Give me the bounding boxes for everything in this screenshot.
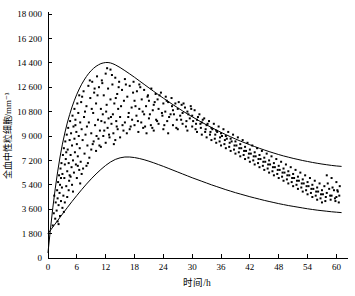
data-point xyxy=(74,119,76,121)
data-point xyxy=(163,124,165,126)
data-point xyxy=(122,130,124,132)
data-point xyxy=(267,163,269,165)
data-point xyxy=(59,184,61,186)
data-point xyxy=(282,172,284,174)
data-point xyxy=(97,138,99,140)
data-point xyxy=(61,173,63,175)
data-point xyxy=(326,192,328,194)
data-point xyxy=(259,158,261,160)
data-point xyxy=(111,74,113,76)
data-point xyxy=(75,163,77,165)
data-point xyxy=(287,182,289,184)
data-point xyxy=(216,131,218,133)
data-point xyxy=(172,124,174,126)
data-point xyxy=(86,126,88,128)
data-point xyxy=(186,130,188,132)
data-point xyxy=(81,96,83,98)
data-point xyxy=(252,159,254,161)
data-point xyxy=(81,128,83,130)
data-point xyxy=(185,120,187,122)
data-point xyxy=(266,153,268,155)
data-point xyxy=(63,177,65,179)
data-point xyxy=(276,173,278,175)
data-point xyxy=(74,124,76,126)
data-point xyxy=(86,144,88,146)
data-point xyxy=(213,123,215,125)
data-point xyxy=(125,83,127,85)
data-point xyxy=(175,127,177,129)
data-point xyxy=(273,174,275,176)
data-point xyxy=(322,193,324,195)
data-point xyxy=(148,117,150,119)
data-point xyxy=(129,85,131,87)
data-point xyxy=(242,139,244,141)
data-point xyxy=(234,153,236,155)
data-point xyxy=(339,185,341,187)
data-point xyxy=(57,181,59,183)
data-point xyxy=(230,138,232,140)
data-point xyxy=(150,88,152,90)
data-point xyxy=(64,201,66,203)
data-point xyxy=(315,195,317,197)
data-point xyxy=(141,98,143,100)
data-point xyxy=(72,115,74,117)
data-point xyxy=(123,100,125,102)
data-point xyxy=(164,111,166,113)
data-point xyxy=(89,97,91,99)
data-point xyxy=(92,112,94,114)
data-point xyxy=(281,176,283,178)
y-tick-label: 14 400 xyxy=(17,58,42,68)
data-point xyxy=(60,200,62,202)
data-point xyxy=(117,128,119,130)
data-point xyxy=(263,169,265,171)
data-point xyxy=(299,172,301,174)
data-point xyxy=(118,81,120,83)
data-point xyxy=(293,177,295,179)
data-point xyxy=(177,108,179,110)
data-point xyxy=(202,119,204,121)
data-point xyxy=(68,162,70,164)
data-point xyxy=(71,184,73,186)
data-point xyxy=(166,120,168,122)
data-point xyxy=(58,174,60,176)
data-point xyxy=(92,143,94,145)
data-point xyxy=(267,168,269,170)
data-point xyxy=(87,85,89,87)
x-tick-label: 12 xyxy=(101,262,110,272)
data-point xyxy=(127,116,129,118)
data-point xyxy=(115,120,117,122)
data-point xyxy=(230,150,232,152)
data-point xyxy=(82,139,84,141)
data-point xyxy=(149,113,151,115)
data-point xyxy=(301,182,303,184)
data-point xyxy=(88,157,90,159)
data-point xyxy=(248,153,250,155)
data-point xyxy=(112,113,114,115)
data-point xyxy=(65,185,67,187)
data-point xyxy=(67,127,69,129)
data-point xyxy=(152,109,154,111)
data-point xyxy=(156,120,158,122)
data-point xyxy=(292,185,294,187)
data-point xyxy=(227,131,229,133)
data-point xyxy=(168,116,170,118)
x-tick-label: 54 xyxy=(303,262,313,272)
y-tick-label: 10 800 xyxy=(17,107,42,117)
data-point xyxy=(97,94,99,96)
data-point xyxy=(71,166,73,168)
data-point xyxy=(307,193,309,195)
data-point xyxy=(254,151,256,153)
data-point xyxy=(184,107,186,109)
data-point xyxy=(144,126,146,128)
data-point xyxy=(145,105,147,107)
data-point xyxy=(319,182,321,184)
data-point xyxy=(161,112,163,114)
data-point xyxy=(196,131,198,133)
data-point xyxy=(234,140,236,142)
data-point xyxy=(195,128,197,130)
data-point xyxy=(161,115,163,117)
data-point xyxy=(136,90,138,92)
data-point xyxy=(286,174,288,176)
data-point xyxy=(256,147,258,149)
data-point xyxy=(114,139,116,141)
